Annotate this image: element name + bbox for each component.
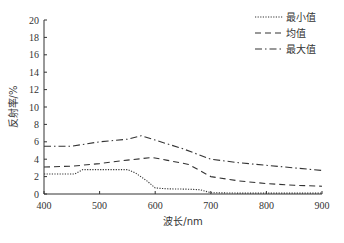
series-line-dotted	[44, 170, 322, 194]
legend-label: 均值	[286, 27, 306, 39]
x-tick-label: 500	[92, 200, 107, 211]
y-tick-label: 10	[29, 102, 39, 113]
x-tick-label: 700	[203, 200, 218, 211]
y-tick-label: 0	[34, 189, 39, 200]
y-tick-label: 2	[34, 171, 39, 182]
x-tick-label: 900	[315, 200, 330, 211]
y-tick-label: 20	[29, 15, 39, 26]
y-tick-label: 18	[29, 32, 39, 43]
y-tick-label: 14	[29, 67, 39, 78]
y-tick-label: 8	[34, 119, 39, 130]
axes: 02468101214161820400500600700800900	[29, 15, 330, 212]
x-tick-label: 800	[259, 200, 274, 211]
y-tick-label: 12	[29, 84, 39, 95]
x-tick-label: 400	[37, 200, 52, 211]
reflectance-chart: 02468101214161820400500600700800900 最小值均…	[0, 0, 344, 243]
series-line-dashed	[44, 158, 322, 187]
y-tick-label: 16	[29, 49, 39, 60]
legend: 最小值均值最大值	[255, 11, 316, 55]
y-axis-title: 反射率/%	[7, 86, 19, 129]
y-tick-label: 4	[34, 154, 39, 165]
legend-label: 最小值	[286, 11, 316, 23]
x-tick-label: 600	[148, 200, 163, 211]
y-tick-label: 6	[34, 136, 39, 147]
series-lines	[44, 136, 322, 193]
x-axis-title: 波长/nm	[163, 215, 202, 227]
legend-label: 最大值	[286, 43, 316, 55]
